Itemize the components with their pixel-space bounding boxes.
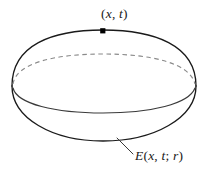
point-marker-dot <box>100 28 105 33</box>
point-label-comma: , <box>112 6 119 21</box>
region-label-close-paren: ) <box>178 148 183 163</box>
region-label: E(x, t; r) <box>135 149 183 163</box>
equator-front-arc <box>13 88 195 113</box>
point-label-close-paren: ) <box>123 6 128 21</box>
equator-back-dashed-arc <box>13 54 195 84</box>
region-label-semicolon: ; <box>165 148 173 163</box>
point-label: (x, t) <box>101 7 128 21</box>
upper-dome-arc <box>12 30 196 86</box>
region-label-comma: , <box>154 148 161 163</box>
region-label-leader-line <box>117 138 133 154</box>
figure-container: (x, t) E(x, t; r) <box>0 0 206 176</box>
